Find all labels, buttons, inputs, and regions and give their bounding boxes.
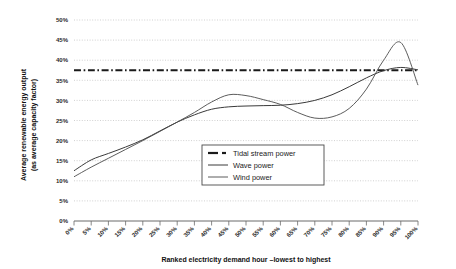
chart-container: 0%5%10%15%20%25%30%35%40%45%50% 0%5%10%1… — [0, 0, 456, 269]
y-tick-label: 0% — [59, 218, 68, 224]
y-axis-title-line1: Average renewable energy output — [20, 68, 28, 181]
chart-legend: Tidal stream powerWave powerWind power — [202, 145, 324, 185]
y-axis-title-line2: (as average capacity factor) — [30, 79, 38, 171]
y-tick-label: 25% — [56, 118, 69, 124]
legend-label-tidal-stream-power: Tidal stream power — [233, 149, 296, 158]
y-tick-label: 30% — [56, 98, 69, 104]
y-tick-label: 10% — [56, 178, 69, 184]
x-axis-title: Ranked electricity demand hour –lowest t… — [161, 256, 331, 264]
legend-label-wave-power: Wave power — [233, 161, 274, 170]
y-tick-label: 35% — [56, 78, 69, 84]
x-axis-ticks — [74, 221, 418, 226]
renewable-output-line-chart: 0%5%10%15%20%25%30%35%40%45%50% 0%5%10%1… — [0, 0, 456, 269]
y-tick-label: 5% — [59, 198, 68, 204]
y-tick-label: 50% — [56, 17, 69, 23]
y-tick-label: 45% — [56, 37, 69, 43]
y-tick-label: 20% — [56, 138, 69, 144]
y-tick-label: 15% — [56, 158, 69, 164]
y-tick-label: 40% — [56, 57, 69, 63]
legend-label-wind-power: Wind power — [233, 173, 273, 182]
